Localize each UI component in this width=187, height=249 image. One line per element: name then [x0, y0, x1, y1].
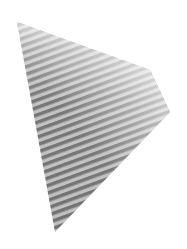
abstract-image [0, 0, 187, 249]
striped-quadrilateral [0, 0, 187, 249]
